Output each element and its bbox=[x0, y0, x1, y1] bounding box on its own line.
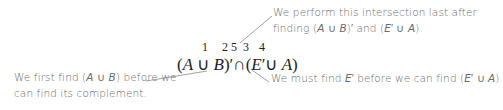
var-e: E bbox=[384, 22, 391, 34]
annotation-top: We perform this intersection last after … bbox=[273, 4, 477, 36]
var-a: A bbox=[183, 55, 193, 74]
var-b: B bbox=[109, 71, 116, 83]
union-symbol: ′ ∪ bbox=[391, 22, 408, 34]
annotation-bottom-left-line2: can find its complement. bbox=[14, 85, 177, 101]
text: We first find ( bbox=[14, 71, 86, 83]
order-label-3: 3 bbox=[243, 40, 249, 55]
order-label-2: 2 bbox=[222, 40, 228, 55]
order-label-4: 4 bbox=[259, 40, 265, 55]
order-label-5: 5 bbox=[231, 40, 237, 55]
var-e: E bbox=[251, 55, 261, 74]
order-labels: 1 2 5 3 4 bbox=[0, 40, 484, 54]
complement-close: )′ bbox=[224, 55, 233, 74]
union-symbol: ∪ bbox=[94, 71, 109, 83]
text: ′ before we can find ( bbox=[352, 72, 465, 84]
union-symbol: ∪ bbox=[193, 55, 214, 74]
text: finding ( bbox=[273, 22, 317, 34]
leader-line-top bbox=[240, 16, 272, 43]
annotation-top-line1: We perform this intersection last after bbox=[273, 4, 477, 20]
var-b: B bbox=[214, 55, 224, 74]
var-e: E bbox=[464, 72, 471, 84]
text: )′ and ( bbox=[347, 22, 384, 34]
var-e: E bbox=[345, 72, 352, 84]
order-label-1: 1 bbox=[202, 40, 208, 55]
union-symbol: ′ ∪ bbox=[471, 72, 488, 84]
annotation-top-line2: finding (A ∪ B)′ and (E′ ∪ A). bbox=[273, 20, 477, 36]
var-a: A bbox=[86, 71, 93, 83]
text: ) before we bbox=[116, 71, 177, 83]
annotation-bottom-left: We first find (A ∪ B) before we can find… bbox=[14, 69, 177, 101]
intersection-symbol: ∩ bbox=[233, 55, 245, 74]
text: ). bbox=[495, 72, 503, 84]
annotation-bottom-left-line1: We first find (A ∪ B) before we bbox=[14, 69, 177, 85]
var-b: B bbox=[339, 22, 346, 34]
annotation-bottom-right: We must find E′ before we can find (E′ ∪… bbox=[271, 70, 503, 86]
text: ). bbox=[415, 22, 423, 34]
union-symbol: ∪ bbox=[324, 22, 339, 34]
text: We must find bbox=[271, 72, 345, 84]
